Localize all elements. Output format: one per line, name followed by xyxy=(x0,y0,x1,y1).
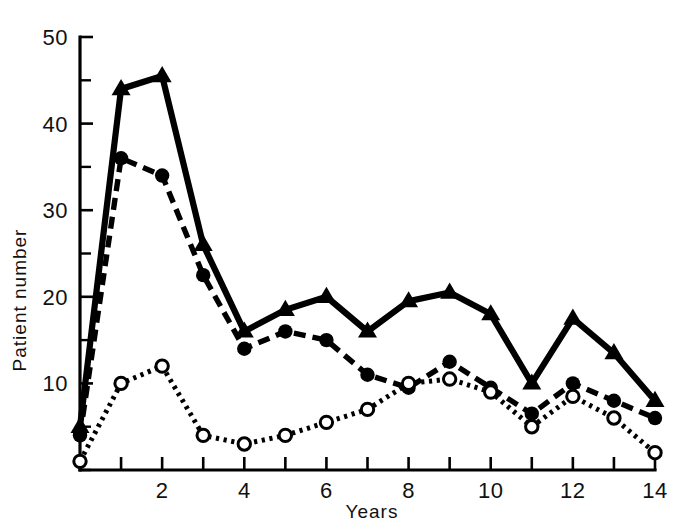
chart-figure: 1020304050 2468101214 Patient number Yea… xyxy=(0,0,680,529)
series-markers-layer xyxy=(71,66,665,468)
data-point-filled-circle xyxy=(525,407,539,421)
data-point-open-circle xyxy=(279,429,291,441)
data-point-filled-circle xyxy=(566,376,580,390)
y-tick-label: 30 xyxy=(43,198,68,223)
data-point-filled-circle xyxy=(442,355,456,369)
data-point-triangle xyxy=(194,235,213,251)
data-point-open-circle xyxy=(485,386,497,398)
data-point-open-circle xyxy=(649,446,661,458)
data-point-open-circle xyxy=(443,373,455,385)
data-point-triangle xyxy=(563,308,582,324)
data-point-open-circle xyxy=(361,403,373,415)
x-tick-label: 8 xyxy=(402,478,415,503)
data-point-filled-circle xyxy=(607,394,621,408)
x-tick-label: 10 xyxy=(478,478,503,503)
data-point-triangle xyxy=(440,282,459,298)
data-point-filled-circle xyxy=(360,368,374,382)
data-point-open-circle xyxy=(608,412,620,424)
line-chart-svg: 1020304050 2468101214 Patient number Yea… xyxy=(0,0,680,529)
y-tick-label: 10 xyxy=(43,371,68,396)
data-point-triangle xyxy=(317,287,336,303)
data-point-filled-circle xyxy=(114,151,128,165)
data-point-open-circle xyxy=(238,438,250,450)
x-tick-label: 2 xyxy=(156,478,169,503)
x-tick-label: 6 xyxy=(320,478,333,503)
data-point-filled-circle xyxy=(648,411,662,425)
data-point-open-circle xyxy=(567,390,579,402)
x-tick-label: 12 xyxy=(560,478,585,503)
x-axis-title: Years xyxy=(346,501,399,522)
data-point-filled-circle xyxy=(73,428,87,442)
y-tick-label: 20 xyxy=(43,285,68,310)
x-tick-label: 14 xyxy=(642,478,667,503)
data-point-open-circle xyxy=(402,377,414,389)
x-tick-label: 4 xyxy=(238,478,251,503)
data-point-open-circle xyxy=(320,416,332,428)
data-point-triangle xyxy=(153,66,172,82)
y-axis-title: Patient number xyxy=(9,229,30,372)
data-point-filled-circle xyxy=(155,168,169,182)
y-tick-label: 50 xyxy=(43,25,68,50)
y-tick-label: 40 xyxy=(43,112,68,137)
data-point-open-circle xyxy=(115,377,127,389)
x-axis-tick-labels: 2468101214 xyxy=(156,478,668,503)
data-point-open-circle xyxy=(526,421,538,433)
data-point-filled-circle xyxy=(319,333,333,347)
x-axis-ticks xyxy=(80,457,655,470)
data-point-open-circle xyxy=(197,429,209,441)
data-point-filled-circle xyxy=(237,342,251,356)
y-axis-tick-labels: 1020304050 xyxy=(43,25,68,396)
data-point-filled-circle xyxy=(278,324,292,338)
data-point-open-circle xyxy=(156,360,168,372)
data-point-filled-circle xyxy=(196,268,210,282)
data-point-open-circle xyxy=(74,455,86,467)
